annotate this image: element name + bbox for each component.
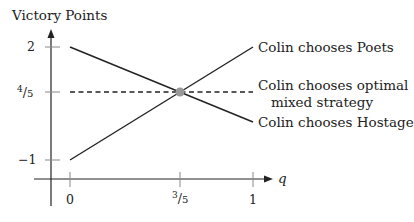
mixed-label-line1: Colin chooses optimal bbox=[258, 77, 386, 94]
mixed-strategy-label: Colin chooses optimal mixed strategy bbox=[258, 77, 386, 111]
hostage-label: Colin chooses Hostage bbox=[258, 114, 414, 130]
y-axis-arrow-icon bbox=[48, 29, 55, 38]
x-axis-arrow-icon bbox=[264, 176, 273, 183]
x-tick-denominator: 5 bbox=[182, 194, 188, 205]
poets-label: Colin chooses Poets bbox=[258, 39, 394, 55]
x-axis-label: q bbox=[278, 170, 287, 186]
x-tick-label-0: 0 bbox=[66, 192, 74, 207]
y-tick-denominator: 5 bbox=[27, 88, 33, 99]
mixed-label-line2: mixed strategy bbox=[258, 94, 386, 111]
y-axis-label: Victory Points bbox=[12, 7, 107, 23]
y-tick-label-m1: −1 bbox=[18, 152, 36, 167]
x-tick-label-1: 1 bbox=[249, 192, 257, 207]
y-tick-label-4-5: 4/5 bbox=[17, 84, 33, 100]
equilibrium-point bbox=[176, 88, 185, 97]
y-tick-label-2: 2 bbox=[27, 39, 35, 54]
hostage-line bbox=[70, 47, 253, 122]
poets-line bbox=[70, 47, 253, 160]
x-tick-label-3-5: 3/5 bbox=[172, 190, 188, 206]
